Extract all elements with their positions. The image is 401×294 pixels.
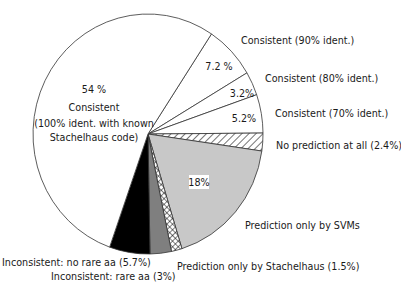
ext-label-svm: Prediction only by SVMs bbox=[245, 220, 360, 231]
ext-label-inconsistent-no-rare: Inconsistent: no rare aa (5.7%) bbox=[2, 257, 151, 268]
label-consistent-100-line2: (100% ident. with known bbox=[34, 118, 154, 129]
label-consistent-100-line3: Stachelhaus code) bbox=[50, 132, 139, 143]
label-54-pct: 54 % bbox=[82, 84, 106, 95]
label-pct-70: 5.2% bbox=[232, 113, 256, 124]
label-pct-80: 3.2% bbox=[230, 88, 254, 99]
ext-label-inconsistent-rare: Inconsistent: rare aa (3%) bbox=[51, 271, 176, 282]
pie-chart: 54 % Consistent (100% ident. with known … bbox=[0, 0, 401, 294]
label-pct-90: 7.2 % bbox=[205, 61, 232, 72]
ext-label-90: Consistent (90% ident.) bbox=[241, 35, 354, 46]
ext-label-no-prediction: No prediction at all (2.4%) bbox=[276, 140, 401, 151]
label-pct-svm: 18% bbox=[188, 177, 209, 188]
ext-label-80: Consistent (80% ident.) bbox=[265, 73, 378, 84]
ext-label-70: Consistent (70% ident.) bbox=[275, 108, 388, 119]
ext-label-stachelhaus: Prediction only by Stachelhaus (1.5%) bbox=[177, 261, 359, 272]
label-consistent-100: Consistent bbox=[69, 102, 120, 113]
